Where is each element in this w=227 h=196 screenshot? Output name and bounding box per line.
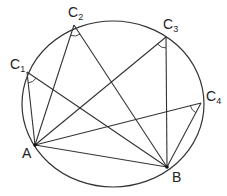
label-c1: C1	[10, 56, 25, 74]
chord-b-c2	[74, 25, 167, 167]
point-a	[33, 143, 37, 147]
chord-a-b	[35, 145, 167, 167]
chord-b-c1	[27, 72, 167, 167]
chords	[27, 25, 201, 167]
label-c4: C4	[206, 88, 221, 106]
point-b	[165, 165, 169, 169]
label-a: A	[22, 145, 32, 161]
angle-mark-c2	[71, 34, 80, 36]
label-c3: C3	[163, 16, 178, 34]
inscribed-angle-diagram: ABC1C2C3C4	[0, 0, 227, 196]
label-b: B	[172, 169, 181, 185]
angle-mark-c4	[190, 106, 196, 113]
diagram-canvas: ABC1C2C3C4	[0, 0, 227, 196]
chord-b-c3	[166, 37, 167, 167]
point-labels: ABC1C2C3C4	[10, 4, 221, 185]
angle-marks	[28, 34, 196, 113]
circle	[22, 21, 204, 187]
angle-mark-c1	[28, 78, 36, 83]
angle-mark-c3	[158, 44, 167, 48]
chord-a-c2	[35, 25, 74, 145]
label-c2: C2	[68, 4, 83, 22]
